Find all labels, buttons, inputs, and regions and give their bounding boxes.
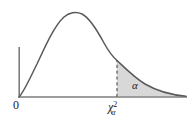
chi-subscript-alpha: α — [111, 108, 115, 117]
alpha-area-label: α — [132, 80, 138, 91]
critical-value-label: χ2α — [108, 100, 121, 116]
origin-label: 0 — [13, 99, 19, 111]
chi-square-figure: 0 χ2α α — [0, 0, 196, 126]
chi-square-plot-svg — [0, 0, 196, 126]
alpha-tail-shaded-region — [117, 61, 186, 97]
chi-square-density-curve — [19, 12, 186, 97]
